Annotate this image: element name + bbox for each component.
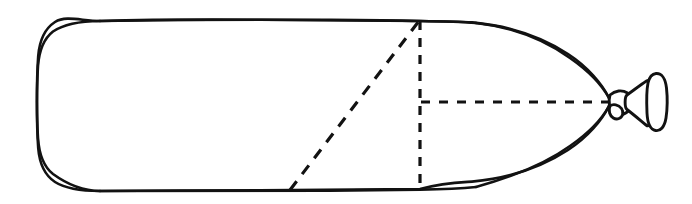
nozzle-ring-loop [647, 73, 667, 130]
nozzle-lower-lobe [609, 105, 623, 119]
balloon-diagram-svg: Balloon outline line drawing with dashed… [0, 0, 692, 204]
figure-root: Balloon outline line drawing with dashed… [0, 0, 692, 204]
